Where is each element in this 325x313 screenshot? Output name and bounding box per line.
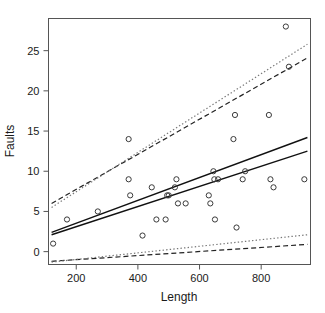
x-tick-label: 200 bbox=[67, 272, 85, 284]
scatter-plot-figure: 200400600800 0510152025 Length Faults bbox=[0, 0, 325, 313]
y-tick-label: 0 bbox=[33, 246, 39, 258]
y-tick-label: 5 bbox=[33, 205, 39, 217]
y-tick-label: 20 bbox=[27, 85, 39, 97]
x-tick-label: 400 bbox=[129, 272, 147, 284]
plot-canvas: 200400600800 0510152025 Length Faults bbox=[0, 0, 325, 313]
y-tick-label: 25 bbox=[27, 45, 39, 57]
x-axis-title: Length bbox=[161, 290, 198, 304]
x-tick-label: 600 bbox=[190, 272, 208, 284]
y-axis-title: Faults bbox=[3, 125, 17, 158]
y-tick-label: 15 bbox=[27, 125, 39, 137]
x-tick-label: 800 bbox=[252, 272, 270, 284]
y-tick-label: 10 bbox=[27, 165, 39, 177]
